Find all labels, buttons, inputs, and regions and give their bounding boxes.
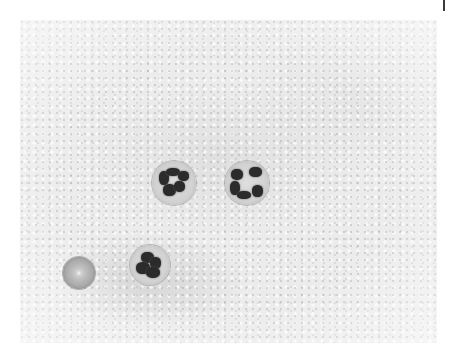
micrograph-image <box>20 20 437 343</box>
corner-mark <box>443 0 445 11</box>
nucleus-lobe <box>252 185 263 197</box>
neutrophil-cell <box>225 161 269 205</box>
nucleus-lobe <box>249 167 262 177</box>
neutrophil-cell <box>152 161 196 205</box>
nucleus-lobe <box>237 191 251 199</box>
nucleus-lobe <box>146 267 160 278</box>
nucleus-lobe <box>174 181 185 192</box>
nucleus-lobe <box>178 171 189 181</box>
red-blood-cell <box>63 257 95 289</box>
neutrophil-cell <box>130 245 170 285</box>
nucleus-lobe <box>231 169 243 180</box>
